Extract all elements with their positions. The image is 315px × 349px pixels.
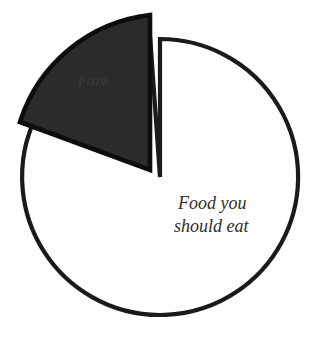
pie-slice-label-pizza: Pizza (76, 72, 108, 90)
pie-chart-figure: Pizza Food you should eat (0, 0, 315, 349)
pie-slice-label-food-line1: Food you (177, 193, 246, 213)
pie-slice-label-food-line2: should eat (174, 216, 249, 236)
pie-chart-canvas: Pizza Food you should eat (0, 0, 315, 349)
